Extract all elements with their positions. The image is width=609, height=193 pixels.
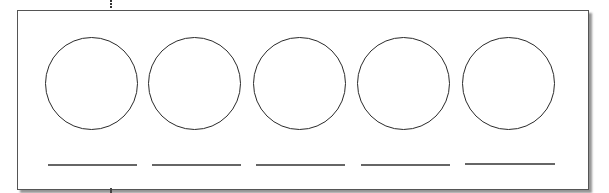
circle-2 (148, 37, 241, 130)
worksheet-frame (17, 10, 589, 190)
dot (110, 3, 112, 5)
dot (110, 0, 112, 2)
dotted-guide-mark (110, 0, 113, 9)
answer-line-5[interactable] (465, 163, 555, 165)
dot (110, 6, 112, 8)
answer-line-3[interactable] (256, 164, 345, 166)
circle-4 (357, 37, 450, 130)
answer-line-1[interactable] (48, 164, 137, 166)
answer-line-4[interactable] (361, 164, 450, 166)
circle-5 (462, 37, 555, 130)
answer-line-2[interactable] (152, 164, 241, 166)
circle-3 (253, 37, 346, 130)
bottom-guide-tick (110, 188, 112, 193)
circle-1 (45, 37, 138, 130)
